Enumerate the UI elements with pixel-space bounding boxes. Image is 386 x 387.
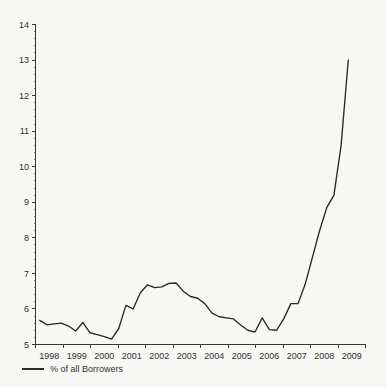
y-axis-tick-label: 5 xyxy=(24,340,29,350)
x-axis-tick-label: 1998 xyxy=(39,351,59,361)
x-axis-tick-label: 2004 xyxy=(204,351,224,361)
x-axis-tick-label: 2005 xyxy=(232,351,252,361)
legend-line-swatch xyxy=(22,368,44,370)
y-axis-tick-label: 11 xyxy=(20,126,29,136)
y-axis-tick-label: 12 xyxy=(19,91,29,101)
y-axis-tick-label: 13 xyxy=(19,55,29,65)
x-axis-labels: 1998199920002001200220032004200520062007… xyxy=(39,351,362,361)
x-axis-tick-label: 2008 xyxy=(314,351,334,361)
x-axis-tick-label: 1999 xyxy=(67,351,87,361)
y-axis-tick-label: 7 xyxy=(24,269,29,279)
y-axis-tick-label: 14 xyxy=(19,20,29,30)
chart-legend: % of all Borrowers xyxy=(22,364,123,374)
line-chart-plot: 567891011121314 199819992000200120022003… xyxy=(0,0,386,387)
y-axis-tick-label: 8 xyxy=(24,233,29,243)
x-axis-tick-label: 2002 xyxy=(149,351,169,361)
y-axis-tick-label: 6 xyxy=(24,304,29,314)
y-axis-labels: 567891011121314 xyxy=(19,20,29,350)
x-axis-tick-label: 2006 xyxy=(259,351,279,361)
x-axis-tick-label: 2000 xyxy=(94,351,114,361)
x-axis-tick-label: 2009 xyxy=(342,351,362,361)
y-axis-tick-label: 10 xyxy=(19,162,29,172)
y-axis-ticks xyxy=(32,25,36,345)
legend-item-label: % of all Borrowers xyxy=(50,364,123,374)
y-axis-tick-label: 9 xyxy=(24,197,29,207)
data-series-line xyxy=(40,60,348,339)
chart-container: 567891011121314 199819992000200120022003… xyxy=(0,0,386,387)
x-axis-tick-label: 2007 xyxy=(287,351,307,361)
x-axis-tick-label: 2001 xyxy=(122,351,142,361)
x-axis-tick-label: 2003 xyxy=(177,351,197,361)
x-axis-ticks xyxy=(36,345,366,349)
